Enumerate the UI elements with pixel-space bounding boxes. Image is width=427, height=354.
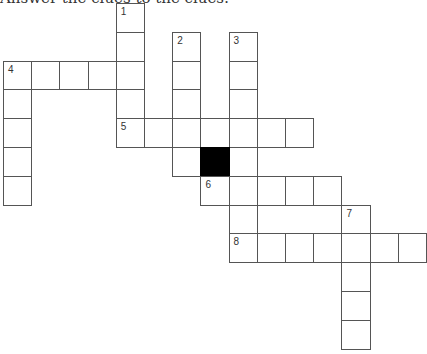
grid-cell[interactable] — [116, 61, 145, 91]
grid-cell[interactable] — [341, 320, 370, 350]
grid-cell[interactable] — [341, 233, 370, 263]
grid-cell[interactable] — [229, 89, 258, 119]
grid-cell[interactable] — [341, 291, 370, 321]
grid-cell[interactable] — [370, 233, 399, 263]
grid-cell[interactable] — [229, 205, 258, 235]
grid-cell[interactable]: 8 — [229, 233, 258, 263]
grid-cell[interactable] — [172, 89, 201, 119]
grid-cell[interactable]: 6 — [200, 176, 229, 206]
grid-cell[interactable] — [59, 61, 88, 91]
grid-cell[interactable] — [257, 233, 286, 263]
grid-cell[interactable] — [257, 118, 286, 148]
grid-cell[interactable] — [88, 61, 117, 91]
clue-number: 7 — [346, 209, 352, 219]
grid-cell[interactable] — [172, 61, 201, 91]
grid-cell[interactable] — [229, 176, 258, 206]
grid-cell[interactable] — [172, 147, 201, 177]
clue-number: 3 — [234, 36, 240, 46]
grid-cell[interactable]: 5 — [116, 118, 145, 148]
grid-cell[interactable]: 1 — [116, 3, 145, 33]
grid-cell[interactable] — [229, 61, 258, 91]
grid-cell[interactable] — [313, 176, 342, 206]
grid-cell[interactable] — [398, 233, 427, 263]
clue-number: 4 — [8, 65, 14, 75]
grid-cell[interactable] — [116, 89, 145, 119]
grid-cell[interactable] — [31, 61, 60, 91]
grid-cell[interactable]: 7 — [341, 205, 370, 235]
grid-cell[interactable] — [229, 147, 258, 177]
grid-cell[interactable] — [200, 118, 229, 148]
grid-cell[interactable] — [257, 176, 286, 206]
grid-cell[interactable] — [313, 233, 342, 263]
clue-number: 8 — [234, 237, 240, 247]
grid-cell[interactable]: 3 — [229, 32, 258, 62]
grid-cell[interactable]: 4 — [3, 61, 32, 91]
grid-cell[interactable] — [3, 147, 32, 177]
grid-cell[interactable] — [285, 176, 314, 206]
grid-cell[interactable] — [3, 89, 32, 119]
clue-number: 6 — [205, 180, 211, 190]
grid-cell[interactable] — [285, 118, 314, 148]
grid-cell[interactable]: 2 — [172, 32, 201, 62]
grid-cell[interactable] — [285, 233, 314, 263]
grid-cell[interactable] — [172, 118, 201, 148]
grid-cell[interactable] — [144, 118, 173, 148]
grid-cell[interactable] — [229, 118, 258, 148]
grid-cell[interactable] — [116, 32, 145, 62]
clue-number: 5 — [121, 122, 127, 132]
grid-cell[interactable] — [341, 262, 370, 292]
black-cell — [200, 147, 229, 177]
grid-cell[interactable] — [3, 176, 32, 206]
grid-cell[interactable] — [3, 118, 32, 148]
clue-number: 1 — [121, 7, 127, 17]
clue-number: 2 — [177, 36, 183, 46]
